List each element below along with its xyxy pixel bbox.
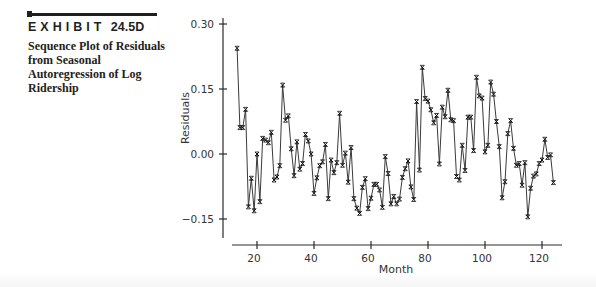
y-tick-label: 0.30 [191, 18, 214, 30]
residuals-sequence-plot: 0.300.150.00−0.1520406080100120 Residual… [0, 0, 596, 287]
axes: 0.300.150.00−0.1520406080100120 [182, 18, 562, 264]
y-axis-title: Residuals [179, 92, 192, 144]
x-tick-label: 40 [304, 252, 317, 264]
x-tick-label: 20 [247, 252, 260, 264]
x-tick-label: 60 [361, 252, 374, 264]
page-edge [0, 273, 596, 287]
y-tick-label: −0.15 [182, 213, 214, 225]
residuals-line [237, 48, 553, 217]
x-tick-label: 120 [529, 252, 549, 264]
y-tick-label: 0.15 [191, 83, 214, 95]
x-tick-label: 100 [472, 252, 492, 264]
x-marker-icon [395, 202, 399, 206]
y-tick-label: 0.00 [191, 148, 214, 160]
data-series [235, 46, 555, 219]
x-tick-label: 80 [418, 252, 431, 264]
